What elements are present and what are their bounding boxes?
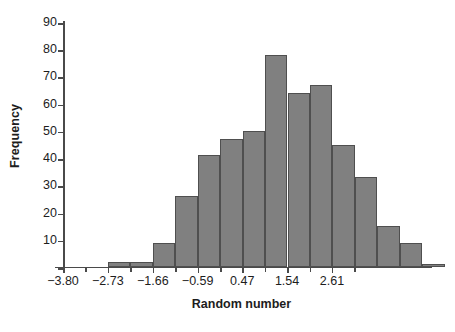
y-tick-label: 30 (29, 179, 57, 192)
y-tick-label: 50 (29, 125, 57, 138)
x-axis-title-text: Random number (164, 297, 291, 311)
x-tick-mark (153, 267, 155, 273)
y-tick-mark (58, 77, 63, 79)
x-tick-mark-minor (310, 267, 312, 272)
x-axis-tick-labels: −3.80−2.73−1.66−0.590.471.542.61 (0, 275, 455, 297)
x-tick-label: −3.80 (47, 275, 79, 288)
y-tick-label: 80 (29, 43, 57, 56)
x-tick-mark (332, 267, 334, 273)
x-tick-label: −1.66 (137, 275, 169, 288)
x-tick-mark-minor (130, 267, 132, 272)
x-tick-mark (287, 267, 289, 273)
x-tick-mark-minor (220, 267, 222, 272)
y-axis-title-text: Frequency (8, 104, 22, 168)
y-axis-title: Frequency (2, 0, 28, 272)
x-axis-title: Random number (0, 297, 455, 311)
x-tick-label: 2.61 (320, 275, 344, 288)
histogram-chart: Frequency 102030405060708090 −3.80−2.73−… (0, 0, 455, 332)
histogram-bar (198, 155, 220, 267)
y-tick-mark (58, 186, 63, 188)
y-tick-label: 90 (29, 16, 57, 29)
x-tick-mark (63, 267, 65, 273)
histogram-bar (377, 226, 399, 267)
x-tick-label: −2.73 (92, 275, 124, 288)
histogram-bar (153, 243, 175, 268)
y-tick-mark (58, 132, 63, 134)
histogram-bar (108, 262, 130, 267)
x-tick-mark-minor (175, 267, 177, 272)
y-tick-mark (58, 50, 63, 52)
histogram-bar (310, 85, 332, 267)
x-tick-mark-minor (354, 267, 356, 272)
x-tick-mark (108, 267, 110, 273)
histogram-bar (243, 131, 265, 267)
histogram-bar (130, 262, 152, 267)
x-tick-mark (242, 267, 244, 273)
histogram-bar (355, 177, 377, 267)
y-tick-label: 20 (29, 206, 57, 219)
histogram-bar (175, 196, 197, 267)
y-tick-label: 40 (29, 152, 57, 165)
histogram-bar (288, 93, 310, 267)
histogram-bar (400, 243, 422, 268)
y-tick-mark (58, 214, 63, 216)
x-tick-label: 1.54 (275, 275, 299, 288)
histogram-bar (332, 145, 354, 268)
y-tick-label: 70 (29, 70, 57, 83)
x-tick-label: −0.59 (182, 275, 214, 288)
y-tick-mark (58, 241, 63, 243)
x-tick-label: 0.47 (230, 275, 254, 288)
y-tick-mark (58, 159, 63, 161)
bar-series (63, 22, 400, 267)
histogram-bar (422, 264, 444, 267)
y-tick-label: 10 (29, 234, 57, 247)
y-tick-label: 60 (29, 97, 57, 110)
x-tick-mark-minor (85, 267, 87, 272)
y-tick-mark (58, 105, 63, 107)
histogram-bar (220, 139, 242, 267)
y-tick-mark (58, 23, 63, 25)
histogram-bar (265, 55, 287, 267)
plot-area (63, 22, 400, 267)
x-tick-mark (198, 267, 200, 273)
x-tick-mark-minor (265, 267, 267, 272)
